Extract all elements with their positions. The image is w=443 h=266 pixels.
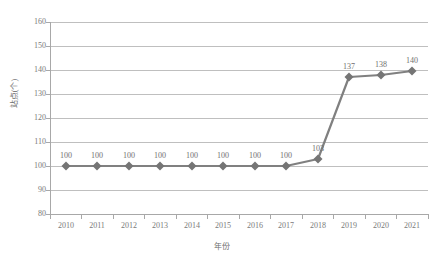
data-label-2015: 100 <box>208 152 238 160</box>
data-label-2019: 137 <box>334 63 364 71</box>
data-point-2013[interactable] <box>156 162 165 171</box>
data-point-2012[interactable] <box>125 162 134 171</box>
data-label-2014: 100 <box>177 152 207 160</box>
x-axis-title: 年份 <box>0 240 443 251</box>
data-label-2021: 140 <box>397 57 427 65</box>
data-label-2017: 100 <box>271 152 301 160</box>
data-label-2020: 138 <box>366 61 396 69</box>
data-point-2010[interactable] <box>62 162 71 171</box>
data-point-2020[interactable] <box>377 71 386 80</box>
data-label-2010: 100 <box>51 152 81 160</box>
data-point-2011[interactable] <box>93 162 102 171</box>
data-point-2016[interactable] <box>251 162 260 171</box>
x-axis-ticks <box>50 214 428 219</box>
data-point-2018[interactable] <box>314 155 323 164</box>
data-point-2015[interactable] <box>219 162 228 171</box>
data-label-2012: 100 <box>114 152 144 160</box>
data-point-2021[interactable] <box>408 67 417 76</box>
gridlines <box>50 22 428 190</box>
data-label-2011: 100 <box>82 152 112 160</box>
data-point-2017[interactable] <box>282 162 291 171</box>
data-point-2019[interactable] <box>345 73 354 82</box>
x-tick-label-2021: 2021 <box>392 222 432 230</box>
data-point-2014[interactable] <box>188 162 197 171</box>
data-label-2018: 103 <box>303 145 333 153</box>
line-chart: 站点(个) 160 150 140 130 120 110 100 90 80 <box>0 0 443 266</box>
data-label-2016: 100 <box>240 152 270 160</box>
data-label-2013: 100 <box>145 152 175 160</box>
y-axis-ticks <box>46 22 50 214</box>
